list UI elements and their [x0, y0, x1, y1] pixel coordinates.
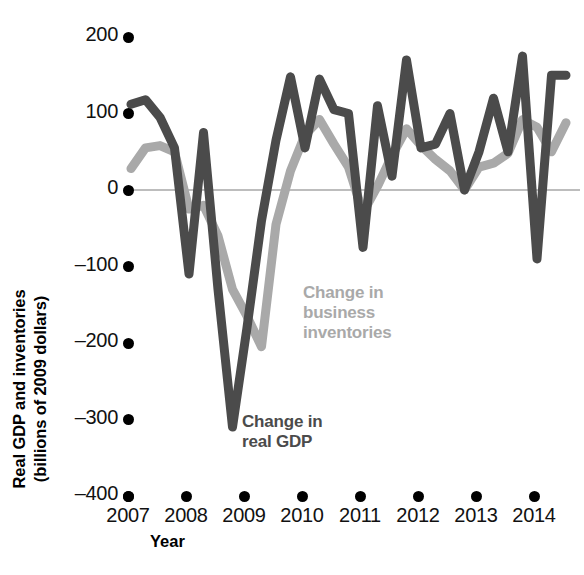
x-tick-label-2012: 2012	[386, 504, 450, 527]
y-tick-dot-neg300	[123, 414, 134, 425]
annotation-inventories-line2: business	[303, 303, 375, 322]
x-tick-label-2008: 2008	[154, 504, 218, 527]
annotation-inventories: Change in business inventories	[303, 283, 392, 343]
y-tick-dot-neg200	[123, 338, 134, 349]
y-tick-label-neg400: –400	[34, 482, 118, 505]
x-tick-dot-2008	[181, 491, 192, 502]
y-tick-label-200: 200	[34, 23, 118, 46]
chart-figure: Real GDP and inventories (billions of 20…	[0, 0, 584, 575]
x-tick-dot-2014	[529, 491, 540, 502]
x-tick-label-2011: 2011	[328, 504, 392, 527]
series-line-gdp	[131, 56, 566, 427]
x-tick-dot-2007	[123, 491, 134, 502]
y-tick-label-neg100: –100	[34, 253, 118, 276]
annotation-inventories-line3: inventories	[303, 323, 392, 342]
annotation-inventories-line1: Change in	[303, 283, 383, 302]
annotation-gdp-line1: Change in	[242, 412, 322, 431]
x-tick-label-2014: 2014	[502, 504, 566, 527]
x-tick-dot-2013	[471, 491, 482, 502]
x-tick-label-2007: 2007	[96, 504, 160, 527]
y-tick-label-neg300: –300	[34, 406, 118, 429]
x-tick-label-2013: 2013	[444, 504, 508, 527]
annotation-gdp-line2: real GDP	[242, 432, 312, 451]
y-tick-label-neg200: –200	[34, 329, 118, 352]
y-tick-dot-200	[123, 32, 134, 43]
y-tick-dot-neg100	[123, 261, 134, 272]
x-tick-dot-2010	[297, 491, 308, 502]
x-tick-label-2010: 2010	[270, 504, 334, 527]
x-tick-dot-2009	[239, 491, 250, 502]
y-tick-dot-0	[123, 185, 134, 196]
y-tick-label-0: 0	[34, 176, 118, 199]
y-tick-dot-100	[123, 108, 134, 119]
x-tick-label-2009: 2009	[212, 504, 276, 527]
annotation-gdp: Change in real GDP	[242, 412, 322, 452]
x-tick-dot-2012	[413, 491, 424, 502]
x-axis-title: Year	[150, 532, 185, 551]
x-tick-dot-2011	[355, 491, 366, 502]
y-tick-label-100: 100	[34, 100, 118, 123]
